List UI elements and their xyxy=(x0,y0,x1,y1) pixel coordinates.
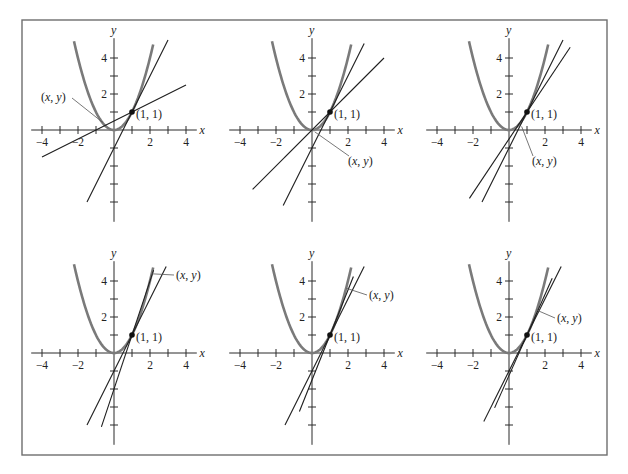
x-tick-label: −2 xyxy=(270,136,282,148)
x-axis-label: x xyxy=(397,123,404,137)
y-tick-label: 2 xyxy=(496,311,502,323)
y-axis-label: y xyxy=(110,23,117,37)
label-leader-line xyxy=(536,310,555,318)
tangent-line xyxy=(87,40,168,202)
moving-point-label: (x, y) xyxy=(369,288,394,302)
tangent-line xyxy=(482,40,563,202)
fixed-point-dot xyxy=(129,109,135,115)
moving-point-label: (x, y) xyxy=(348,154,373,168)
fixed-point-label: (1, 1) xyxy=(334,330,360,344)
x-tick-label: −4 xyxy=(431,359,443,371)
x-axis-label: x xyxy=(594,346,601,360)
x-tick-label: −2 xyxy=(72,136,84,148)
y-tick-label: 4 xyxy=(299,52,305,64)
graph-panel-4: −4−22424xy(1, 1)(x, y) xyxy=(31,246,205,444)
x-tick-label: −2 xyxy=(72,359,84,371)
y-tick-label: 4 xyxy=(496,52,502,64)
figure-border xyxy=(22,20,607,455)
x-tick-label: 2 xyxy=(345,136,351,148)
x-axis-label: x xyxy=(199,346,206,360)
panels-group: −4−22424xy(1, 1)(x, y)−4−22424xy(1, 1)(x… xyxy=(31,23,600,444)
fixed-point-dot xyxy=(524,109,530,115)
x-tick-label: 4 xyxy=(183,136,189,148)
secant-line xyxy=(101,270,153,427)
fixed-point-label: (1, 1) xyxy=(531,330,557,344)
x-tick-label: −2 xyxy=(467,359,479,371)
y-axis-label: y xyxy=(308,246,315,260)
moving-point-label: (x, y) xyxy=(532,154,557,168)
fixed-point-dot xyxy=(327,332,333,338)
fixed-point-dot xyxy=(129,332,135,338)
fixed-point-label: (1, 1) xyxy=(136,330,162,344)
x-tick-label: 4 xyxy=(578,136,584,148)
graph-panel-2: −4−22424xy(1, 1)(x, y) xyxy=(229,23,403,221)
x-axis-label: x xyxy=(594,123,601,137)
x-tick-label: −4 xyxy=(36,136,48,148)
secant-line xyxy=(253,58,384,189)
moving-point-label: (x, y) xyxy=(176,268,201,282)
x-tick-label: 2 xyxy=(345,359,351,371)
x-tick-label: 4 xyxy=(381,359,387,371)
y-axis-label: y xyxy=(308,23,315,37)
x-tick-label: 4 xyxy=(183,359,189,371)
y-tick-label: 2 xyxy=(299,311,305,323)
label-leader-line xyxy=(346,288,367,295)
tangent-line xyxy=(87,267,166,425)
label-leader-line xyxy=(72,98,103,123)
y-tick-label: 4 xyxy=(299,275,305,287)
x-tick-label: 2 xyxy=(542,136,548,148)
fixed-point-dot xyxy=(327,109,333,115)
y-tick-label: 2 xyxy=(299,88,305,100)
secant-line xyxy=(469,47,570,198)
x-tick-label: −4 xyxy=(431,136,443,148)
fixed-point-label: (1, 1) xyxy=(531,107,557,121)
x-tick-label: 2 xyxy=(542,359,548,371)
graph-panel-1: −4−22424xy(1, 1)(x, y) xyxy=(31,23,205,221)
secant-line xyxy=(299,277,353,412)
moving-point-label: (x, y) xyxy=(41,90,66,104)
x-tick-label: 4 xyxy=(381,136,387,148)
moving-point-label: (x, y) xyxy=(557,311,582,325)
y-tick-label: 4 xyxy=(496,275,502,287)
fixed-point-label: (1, 1) xyxy=(334,107,360,121)
y-tick-label: 2 xyxy=(101,88,107,100)
y-axis-label: y xyxy=(110,246,117,260)
fixed-point-label: (1, 1) xyxy=(136,107,162,121)
graph-panel-5: −4−22424xy(1, 1)(x, y) xyxy=(229,246,403,444)
label-leader-line xyxy=(315,132,349,156)
y-tick-label: 2 xyxy=(496,88,502,100)
x-tick-label: −4 xyxy=(36,359,48,371)
x-tick-label: −4 xyxy=(234,359,246,371)
graph-panel-6: −4−22424xy(1, 1)(x, y) xyxy=(426,246,600,444)
x-tick-label: 2 xyxy=(147,359,153,371)
x-axis-label: x xyxy=(199,123,206,137)
x-tick-label: −4 xyxy=(234,136,246,148)
x-tick-label: −2 xyxy=(467,136,479,148)
y-axis-label: y xyxy=(505,246,512,260)
tangent-line xyxy=(283,44,364,206)
y-axis-label: y xyxy=(505,23,512,37)
x-tick-label: 4 xyxy=(578,359,584,371)
y-tick-label: 2 xyxy=(101,311,107,323)
graph-panel-3: −4−22424xy(1, 1)(x, y) xyxy=(426,23,600,221)
y-tick-label: 4 xyxy=(101,275,107,287)
secant-tangent-figure: −4−22424xy(1, 1)(x, y)−4−22424xy(1, 1)(x… xyxy=(0,0,628,474)
y-tick-label: 4 xyxy=(101,52,107,64)
x-axis-label: x xyxy=(397,346,404,360)
x-tick-label: −2 xyxy=(270,359,282,371)
fixed-point-dot xyxy=(524,332,530,338)
x-tick-label: 2 xyxy=(147,136,153,148)
